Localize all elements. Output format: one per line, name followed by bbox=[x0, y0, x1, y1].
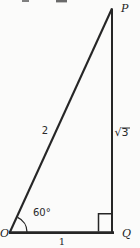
vertex-label-p: P bbox=[120, 2, 129, 15]
vertex-label-q: Q bbox=[122, 227, 131, 240]
base-length-label: 1 bbox=[59, 236, 65, 247]
angle-degree-label: 60° bbox=[33, 207, 51, 218]
right-triangle-figure: P O Q 2 √3 1 60° bbox=[0, 0, 140, 248]
hypotenuse-length-label: 2 bbox=[42, 125, 48, 136]
angle-arc bbox=[18, 217, 27, 232]
scan-artifact bbox=[22, 0, 29, 2]
vertex-label-o: O bbox=[0, 227, 9, 240]
triangle-hypotenuse bbox=[10, 9, 113, 234]
triangle-outline bbox=[9, 9, 114, 234]
right-angle-marker bbox=[99, 214, 112, 232]
scan-artifact bbox=[56, 0, 67, 2]
triangle-diagram-canvas: P O Q 2 √3 1 60° bbox=[0, 0, 140, 248]
sqrt3-length-label: √3 bbox=[115, 126, 131, 139]
